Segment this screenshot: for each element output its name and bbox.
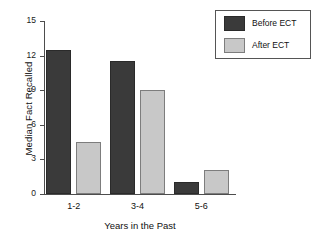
y-axis-tick: 9 bbox=[40, 90, 45, 91]
y-axis-tick-label: 15 bbox=[27, 15, 36, 25]
y-axis-tick-mark bbox=[40, 125, 45, 126]
bar-after-ect-1-2 bbox=[76, 142, 101, 194]
bar-after-ect-3-4 bbox=[140, 90, 165, 194]
y-axis-tick-mark bbox=[40, 21, 45, 22]
bar-before-ect-3-4 bbox=[110, 61, 135, 194]
y-axis-tick: 12 bbox=[40, 56, 45, 57]
legend-swatch-after-ect bbox=[224, 38, 245, 53]
y-axis-tick-mark bbox=[40, 159, 45, 160]
bar-before-ect-1-2 bbox=[46, 50, 71, 194]
x-axis-tick-label: 5-6 bbox=[164, 201, 239, 211]
y-axis-tick-label: 12 bbox=[27, 50, 36, 60]
y-axis-tick-label: 0 bbox=[31, 188, 36, 198]
y-axis-tick: 15 bbox=[40, 21, 45, 22]
legend-label-after-ect: After ECT bbox=[252, 40, 289, 50]
legend-swatch-before-ect bbox=[224, 16, 245, 31]
bar-after-ect-5-6 bbox=[204, 170, 229, 194]
y-axis-line bbox=[44, 21, 45, 195]
x-axis-line bbox=[44, 194, 236, 195]
y-axis-tick: 3 bbox=[40, 159, 45, 160]
y-axis-tick-mark bbox=[40, 56, 45, 57]
legend-box: Before ECT After ECT bbox=[215, 10, 311, 59]
y-axis-tick-label: 3 bbox=[31, 153, 36, 163]
legend-label-before-ect: Before ECT bbox=[252, 18, 296, 28]
bar-chart-figure: Median Fact Recalled 03691215 1-23-45-6 … bbox=[0, 0, 319, 240]
plot-area: 03691215 1-23-45-6 Years in the Past bbox=[44, 21, 235, 194]
y-axis-tick-mark bbox=[40, 90, 45, 91]
y-axis-tick-mark bbox=[40, 194, 45, 195]
bar-before-ect-5-6 bbox=[174, 182, 199, 194]
y-axis-tick: 6 bbox=[40, 125, 45, 126]
y-axis-tick-label: 6 bbox=[31, 119, 36, 129]
y-axis-tick: 0 bbox=[40, 194, 45, 195]
x-axis-title: Years in the Past bbox=[44, 220, 236, 231]
y-axis-tick-label: 9 bbox=[31, 84, 36, 94]
